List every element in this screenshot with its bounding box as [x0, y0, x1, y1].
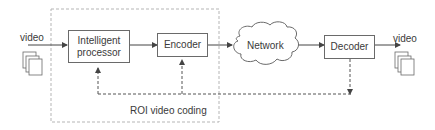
intelligent-processor-node: Intelligent processor	[68, 30, 130, 63]
diagram-canvas	[0, 0, 435, 130]
input-video-label: video	[20, 33, 44, 43]
roi-group-label: ROI video coding	[130, 106, 207, 116]
decoder-node: Decoder	[324, 35, 375, 59]
output-video-frames-icon	[395, 52, 414, 75]
input-video-frames-icon	[23, 52, 42, 75]
output-video-label: video	[393, 34, 417, 44]
network-label: Network	[247, 41, 284, 51]
encoder-node: Encoder	[157, 33, 208, 57]
